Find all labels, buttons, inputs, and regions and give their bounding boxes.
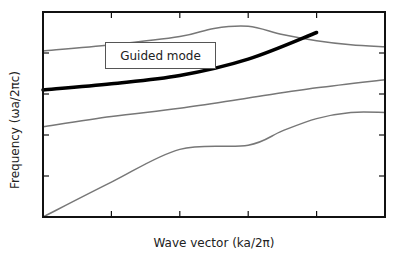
annotation-text: Guided mode xyxy=(120,49,201,63)
y-axis-label-text: Frequency (ωa/2πc) xyxy=(8,71,22,189)
y-axis-label: Frequency (ωa/2πc) xyxy=(2,40,28,220)
band-curve-0 xyxy=(43,112,385,217)
x-axis-label: Wave vector (ka/2π) xyxy=(43,236,385,250)
guided-mode-annotation: Guided mode xyxy=(105,42,216,69)
band-diagram-chart xyxy=(0,0,396,262)
